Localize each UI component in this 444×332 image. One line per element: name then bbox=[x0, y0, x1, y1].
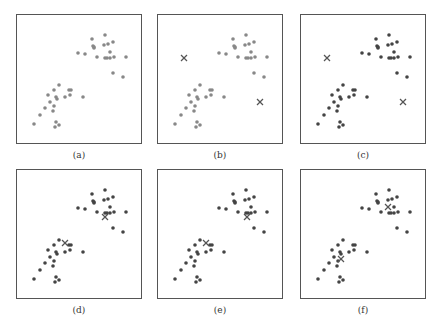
data-point bbox=[95, 210, 99, 214]
data-point bbox=[187, 93, 191, 97]
data-point bbox=[192, 109, 196, 113]
data-point bbox=[121, 230, 125, 234]
data-point bbox=[76, 206, 80, 210]
data-point bbox=[46, 248, 50, 252]
data-point bbox=[252, 71, 256, 75]
panel-label-c: (c) bbox=[300, 150, 426, 160]
scatter-plot-b bbox=[158, 15, 284, 145]
panel-b bbox=[157, 14, 283, 144]
data-point bbox=[194, 280, 198, 284]
centroid-x-icon bbox=[62, 240, 68, 246]
data-point bbox=[102, 43, 106, 47]
data-point bbox=[52, 259, 56, 263]
data-point bbox=[224, 52, 228, 56]
data-point bbox=[38, 268, 42, 272]
data-point bbox=[332, 100, 336, 104]
data-point bbox=[392, 56, 396, 60]
data-point bbox=[83, 207, 87, 211]
data-point bbox=[386, 43, 390, 47]
data-point bbox=[347, 95, 351, 99]
data-point bbox=[43, 106, 47, 110]
data-point bbox=[379, 55, 383, 59]
data-point bbox=[265, 210, 269, 214]
data-point bbox=[173, 122, 177, 126]
panel-c bbox=[300, 14, 426, 144]
data-point bbox=[184, 261, 188, 265]
data-point bbox=[69, 88, 73, 92]
data-point bbox=[365, 250, 369, 254]
data-point bbox=[249, 50, 253, 54]
data-point bbox=[53, 280, 57, 284]
data-point bbox=[196, 252, 200, 256]
data-point bbox=[210, 88, 214, 92]
data-point bbox=[335, 109, 339, 113]
data-point bbox=[316, 277, 320, 281]
data-point bbox=[249, 205, 253, 209]
data-point bbox=[390, 42, 394, 46]
data-point bbox=[262, 230, 266, 234]
data-point bbox=[90, 37, 94, 41]
data-point bbox=[217, 206, 221, 210]
data-point bbox=[68, 248, 72, 252]
data-point bbox=[222, 250, 226, 254]
data-point bbox=[336, 88, 340, 92]
data-point bbox=[210, 243, 214, 247]
data-point bbox=[63, 250, 67, 254]
data-point bbox=[376, 46, 380, 50]
data-point bbox=[92, 46, 96, 50]
scatter-plot-a bbox=[17, 15, 143, 145]
data-point bbox=[179, 113, 183, 117]
data-point bbox=[365, 95, 369, 99]
data-point bbox=[209, 248, 213, 252]
data-point bbox=[209, 93, 213, 97]
data-point bbox=[124, 210, 128, 214]
data-point bbox=[173, 277, 177, 281]
data-point bbox=[360, 206, 364, 210]
data-point bbox=[57, 123, 61, 127]
centroid-x-icon bbox=[181, 55, 187, 61]
data-point bbox=[327, 106, 331, 110]
data-point bbox=[184, 106, 188, 110]
data-point bbox=[332, 255, 336, 259]
data-point bbox=[106, 197, 110, 201]
data-point bbox=[405, 230, 409, 234]
data-point bbox=[338, 275, 342, 279]
data-point bbox=[395, 195, 399, 199]
data-point bbox=[387, 188, 391, 192]
panel-f bbox=[300, 169, 426, 299]
data-point bbox=[217, 51, 221, 55]
data-point bbox=[111, 40, 115, 44]
data-point bbox=[195, 275, 199, 279]
data-point bbox=[330, 248, 334, 252]
panel-label-d: (d) bbox=[16, 305, 142, 315]
data-point bbox=[111, 195, 115, 199]
panel-label-e: (e) bbox=[157, 305, 283, 315]
data-point bbox=[244, 188, 248, 192]
data-point bbox=[341, 278, 345, 282]
panel-label-b: (b) bbox=[157, 150, 283, 160]
data-point bbox=[106, 42, 110, 46]
data-point bbox=[108, 205, 112, 209]
data-point bbox=[395, 40, 399, 44]
data-point bbox=[396, 55, 400, 59]
data-point bbox=[236, 55, 240, 59]
data-point bbox=[52, 88, 56, 92]
data-point bbox=[236, 210, 240, 214]
data-point bbox=[179, 268, 183, 272]
data-point bbox=[316, 122, 320, 126]
panel-a bbox=[16, 14, 142, 144]
data-point bbox=[48, 100, 52, 104]
data-point bbox=[327, 261, 331, 265]
data-point bbox=[103, 188, 107, 192]
scatter-plot-f bbox=[301, 170, 427, 300]
data-point bbox=[81, 250, 85, 254]
data-point bbox=[395, 71, 399, 75]
data-point bbox=[392, 50, 396, 54]
data-point bbox=[108, 50, 112, 54]
data-point bbox=[396, 210, 400, 214]
data-point bbox=[55, 252, 59, 256]
data-point bbox=[112, 55, 116, 59]
centroid-x-icon bbox=[244, 214, 250, 220]
data-point bbox=[367, 207, 371, 211]
data-point bbox=[224, 207, 228, 211]
